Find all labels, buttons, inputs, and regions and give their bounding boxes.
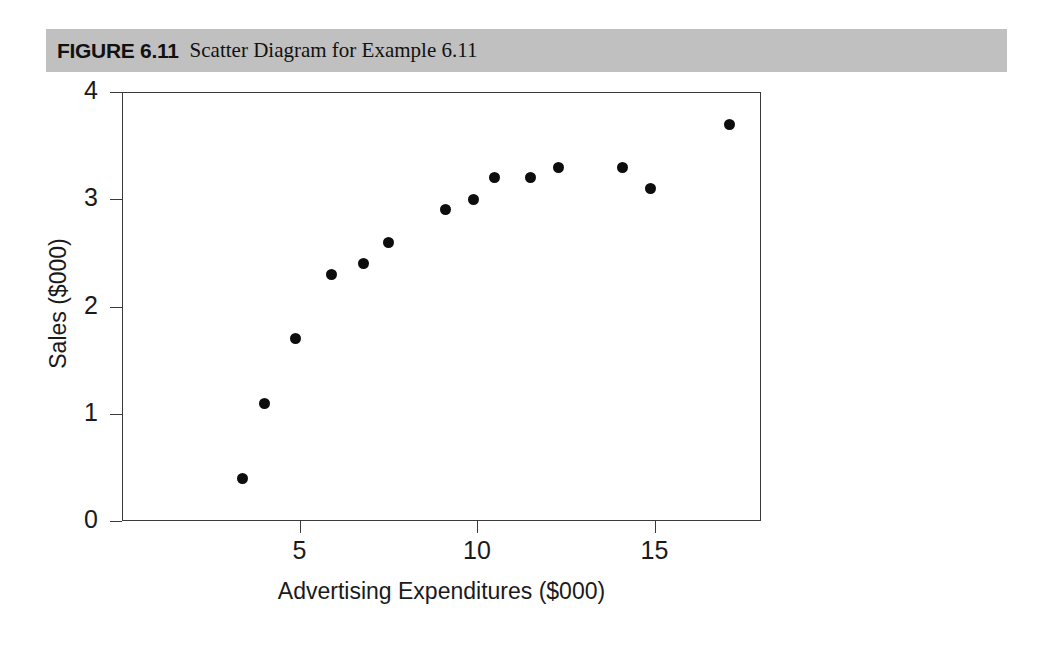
x-tick-mark <box>655 521 656 533</box>
data-point <box>617 162 628 173</box>
x-tick-label: 15 <box>625 538 685 563</box>
data-point <box>468 194 479 205</box>
plot-frame <box>122 92 761 521</box>
data-point <box>358 258 369 269</box>
y-tick-mark <box>110 521 122 522</box>
y-tick-mark <box>110 199 122 200</box>
x-tick-mark <box>300 521 301 533</box>
y-tick-label: 1 <box>58 400 98 425</box>
y-tick-mark <box>110 414 122 415</box>
data-point <box>326 269 337 280</box>
data-point <box>525 172 536 183</box>
scatter-chart: 01234 51015 Sales ($000) Advertising Exp… <box>0 0 1046 654</box>
x-axis-title: Advertising Expenditures ($000) <box>122 578 761 605</box>
x-tick-label: 5 <box>270 538 330 563</box>
y-axis-title: Sales ($000) <box>45 204 72 404</box>
x-tick-mark <box>477 521 478 533</box>
y-tick-mark <box>110 92 122 93</box>
x-tick-label: 10 <box>447 538 507 563</box>
data-point <box>383 237 394 248</box>
data-point <box>553 162 564 173</box>
data-point <box>237 473 248 484</box>
data-point <box>259 398 270 409</box>
y-tick-label: 4 <box>58 78 98 103</box>
data-point <box>440 204 451 215</box>
y-tick-label: 0 <box>58 507 98 532</box>
data-point <box>724 119 735 130</box>
y-tick-mark <box>110 307 122 308</box>
